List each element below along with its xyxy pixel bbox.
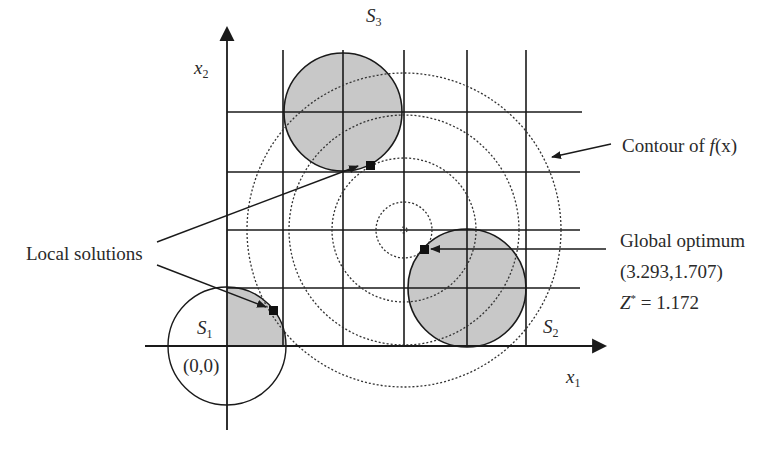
s2-label: S2 <box>543 317 559 339</box>
contour-label: Contour of f(x) <box>622 136 737 155</box>
local-solution-s3-marker <box>366 161 375 170</box>
contour-arrow <box>552 144 611 157</box>
x1-axis-label: x1 <box>566 367 580 389</box>
global-optimum-point: (3.293,1.707) <box>620 262 723 281</box>
x2-axis-label: x2 <box>194 58 208 80</box>
s1-label: S1 <box>197 318 213 340</box>
diagram-canvas <box>0 0 780 456</box>
local-solutions-label: Local solutions <box>26 244 143 263</box>
local-solutions-arrow-2 <box>157 265 266 307</box>
global-optimum-value: Z* = 1.172 <box>620 293 699 312</box>
solution-markers <box>269 161 429 315</box>
global-optimum-marker <box>420 245 429 254</box>
global-optimum-label: Global optimum <box>620 231 745 250</box>
x1-axis-arrow-icon <box>593 340 605 352</box>
x2-axis-arrow-icon <box>221 28 233 40</box>
local-solution-s1-marker <box>269 306 278 315</box>
origin-label: (0,0) <box>183 356 219 375</box>
s3-label: S3 <box>366 6 382 28</box>
